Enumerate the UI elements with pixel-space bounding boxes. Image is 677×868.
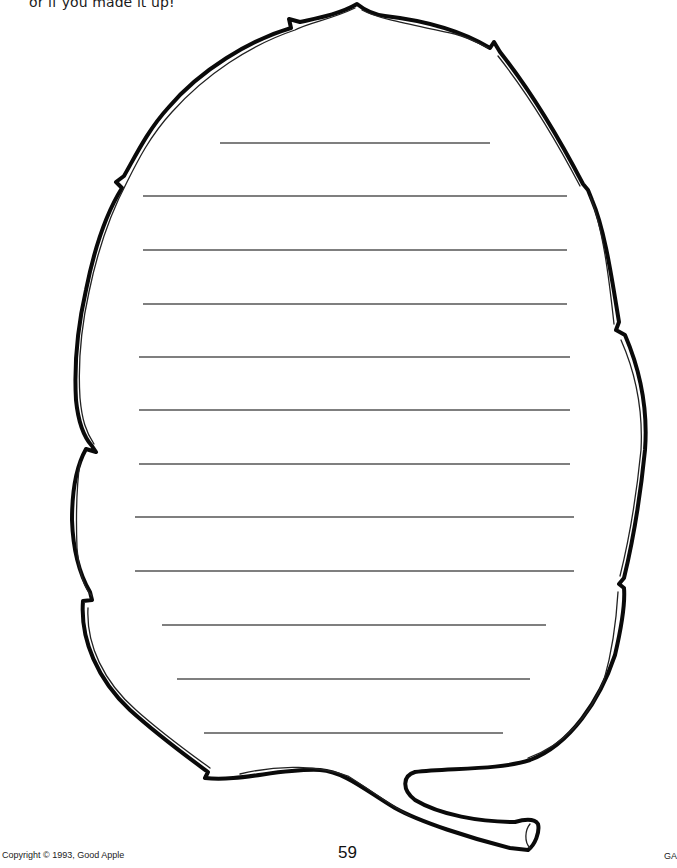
leaf-outline-icon — [72, 4, 646, 850]
copyright-text: Copyright © 1993, Good Apple — [2, 850, 124, 860]
writing-lines — [135, 143, 574, 733]
publisher-code: GA — [664, 851, 677, 861]
page-number: 59 — [338, 843, 357, 863]
